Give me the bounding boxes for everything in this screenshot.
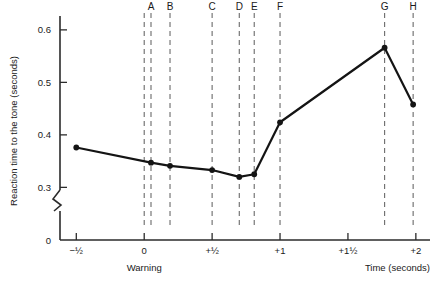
x-axis-tick-label: +2 [410, 245, 421, 256]
y-axis-tick-label: 0.3 [38, 182, 51, 193]
event-marker-label-e: E [251, 1, 258, 12]
data-point [236, 174, 242, 180]
data-point [148, 160, 154, 166]
data-point [251, 171, 257, 177]
reaction-time-line-chart: 00.30.40.50.6−½0+½+1+1½+2ABCDEFGHWarning… [0, 0, 440, 285]
y-axis-tick-label: 0.4 [38, 129, 51, 140]
event-marker-label-b: B [167, 1, 174, 12]
data-point [209, 167, 215, 173]
data-line-reaction-time [76, 48, 413, 177]
data-point [382, 45, 388, 51]
x-axis-tick-label: 0 [142, 245, 147, 256]
x-axis-tick-label: −½ [70, 245, 84, 256]
event-marker-label-c: C [209, 1, 216, 12]
data-point [73, 145, 79, 151]
chart-canvas: 00.30.40.50.6−½0+½+1+1½+2ABCDEFGHWarning… [0, 0, 440, 285]
y-axis-break-zigzag [53, 190, 61, 211]
event-marker-label-d: D [236, 1, 243, 12]
x-axis-tick-label: +½ [205, 245, 219, 256]
y-axis-tick-label: 0 [46, 235, 51, 246]
data-point [167, 163, 173, 169]
x-axis-title: Time (seconds) [365, 262, 430, 273]
data-point [277, 119, 283, 125]
y-axis-title: Reaction time to the tone (seconds) [8, 56, 19, 206]
y-axis-tick-label: 0.5 [38, 77, 51, 88]
warning-axis-label: Warning [127, 262, 162, 273]
event-marker-label-g: G [381, 1, 389, 12]
event-marker-label-a: A [148, 1, 155, 12]
x-axis-tick-label: +1 [275, 245, 286, 256]
event-marker-label-h: H [410, 1, 417, 12]
data-point [410, 102, 416, 108]
event-marker-label-f: F [277, 1, 283, 12]
y-axis-tick-label: 0.6 [38, 24, 51, 35]
x-axis-tick-label: +1½ [339, 245, 358, 256]
